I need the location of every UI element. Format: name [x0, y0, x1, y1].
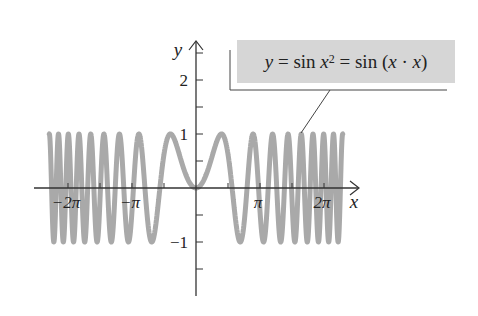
label-close: )	[421, 51, 427, 73]
y-tick-label: 2	[180, 71, 189, 90]
x-tick-label: −2π	[52, 193, 81, 212]
y-tick-label: −1	[170, 233, 188, 252]
x-tick-label: π	[254, 193, 263, 212]
label-exponent: 2	[329, 52, 335, 67]
function-label: y = sin x 2 = sin ( x · x )	[237, 40, 455, 83]
y-tick-label: 1	[180, 125, 189, 144]
label-x2: x	[388, 51, 396, 73]
label-x3: x	[412, 51, 420, 73]
x-axis-label: x	[349, 191, 359, 212]
label-y: y	[265, 51, 273, 73]
callout-leader-line	[301, 90, 330, 133]
x-tick-label: 2π	[313, 193, 331, 212]
x-tick-label: −π	[120, 193, 140, 212]
label-eq2: = sin (	[335, 51, 388, 73]
label-dot: ·	[397, 51, 413, 73]
label-x: x	[320, 51, 328, 73]
y-axis-label: y	[172, 39, 183, 60]
label-eq1: = sin	[273, 51, 320, 73]
